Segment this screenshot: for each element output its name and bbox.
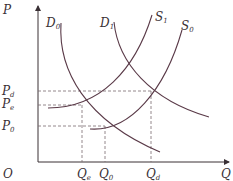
- demand-curve-d1: [114, 22, 209, 117]
- curve-label-d1: D1: [99, 16, 114, 31]
- supply-demand-diagram: P Q O Pd Pe P0 Qe Q0 Qd D0 D1 S1 S0: [0, 0, 233, 181]
- y-axis-label: P: [2, 3, 12, 17]
- curve-label-s0: S0: [181, 19, 194, 34]
- quantity-label-qe: Qe: [77, 167, 91, 181]
- demand-curve-d0: [61, 23, 160, 152]
- quantity-label-qd: Qd: [146, 167, 161, 181]
- curve-label-s1: S1: [155, 10, 168, 25]
- guide-lines: [38, 91, 151, 162]
- diagram-canvas: P Q O Pd Pe P0 Qe Q0 Qd D0 D1 S1 S0: [0, 0, 233, 181]
- price-label-pe: Pe: [1, 97, 14, 112]
- curve-label-d0: D0: [45, 16, 61, 31]
- supply-curve-s0: [90, 30, 182, 129]
- x-axis-label: Q: [221, 167, 231, 181]
- origin-label: O: [3, 167, 13, 181]
- price-label-p0: P0: [1, 119, 15, 134]
- quantity-label-q0: Q0: [99, 167, 114, 181]
